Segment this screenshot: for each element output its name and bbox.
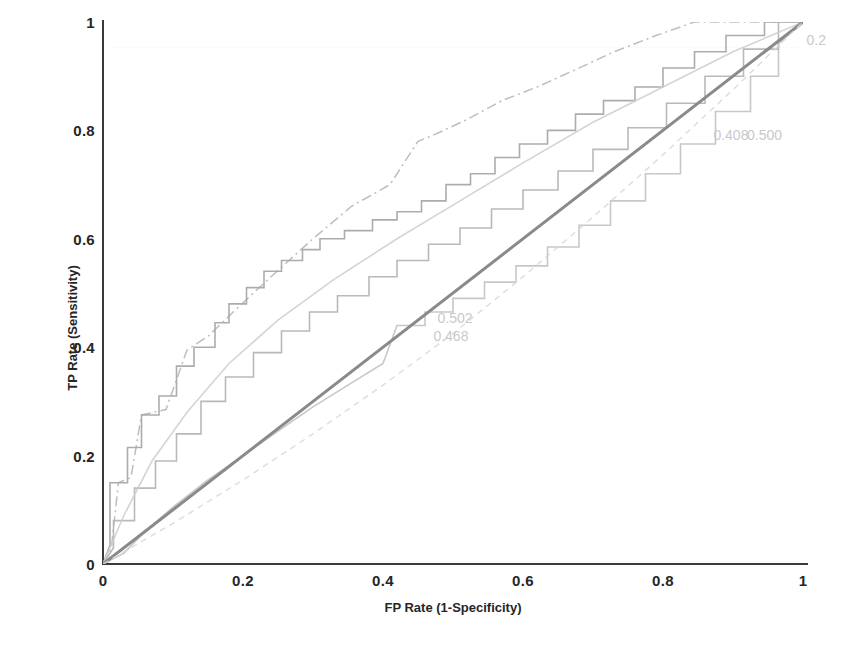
y-tick-label: 0.8	[55, 122, 95, 139]
roc-chart-figure: TP Rate (Sensitivity) 00.20.40.60.81 00.…	[0, 0, 854, 655]
y-tick-label: 0	[55, 556, 95, 573]
x-tick-label: 0.4	[372, 572, 394, 589]
y-tick-label: 0.6	[55, 230, 95, 247]
roc-curves-svg	[103, 22, 803, 564]
y-tick-label: 0.4	[55, 339, 95, 356]
plot-area: 0.5020.4680.4080.5000.2	[103, 22, 803, 564]
x-axis-title: FP Rate (1-Specificity)	[103, 600, 803, 615]
x-tick-label: 0	[99, 572, 108, 589]
roc-curve-diagonal-reference	[103, 22, 803, 564]
x-tick-label: 1	[799, 572, 808, 589]
x-tick-label: 0.8	[652, 572, 674, 589]
y-axis-title: TP Rate (Sensitivity)	[65, 265, 80, 390]
x-tick-label: 0.2	[232, 572, 254, 589]
y-tick-label: 1	[55, 14, 95, 31]
x-tick-label: 0.6	[512, 572, 534, 589]
curve-annotation-ann-02x: 0.2	[807, 32, 826, 48]
y-tick-label: 0.2	[55, 447, 95, 464]
